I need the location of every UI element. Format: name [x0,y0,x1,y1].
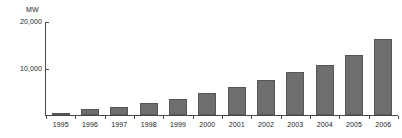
bar-slot [193,22,222,115]
bar[interactable] [169,99,187,115]
x-axis-label: 2003 [281,121,310,128]
bar-slot [281,22,310,115]
bar[interactable] [345,55,363,115]
bar-slot [105,22,134,115]
y-axis-unit-label: MW [26,6,39,13]
x-axis-label: 2002 [251,121,280,128]
y-axis-tick-label: 10,000 [20,65,42,72]
plot-area: 20,00010,000 199519961997199819992000200… [45,22,398,116]
bar[interactable] [198,93,216,115]
x-axis-tick [105,116,106,119]
x-axis-tick [369,116,370,119]
bar[interactable] [110,107,128,115]
y-axis-tick-label-wrap: 20,000 [0,18,42,27]
bar-slot [339,22,368,115]
x-axis-label: 2004 [310,121,339,128]
x-axis-tick [222,116,223,119]
x-axis-tick [339,116,340,119]
x-axis-label: 2001 [222,121,251,128]
x-axis-tick [75,116,76,119]
y-axis-tick-label: 20,000 [20,18,42,25]
x-axis-label: 2005 [339,121,368,128]
x-axis-tick [398,116,399,119]
bar[interactable] [228,87,246,115]
bar[interactable] [316,65,334,115]
bar-slot [222,22,251,115]
x-axis-tick [193,116,194,119]
x-axis-label: 1997 [105,121,134,128]
bar-chart-figure: MW 20,00010,000 199519961997199819992000… [0,0,402,138]
x-axis-label: 1998 [134,121,163,128]
bar[interactable] [374,39,392,115]
bar[interactable] [81,109,99,115]
x-axis-tick [134,116,135,119]
x-axis-label: 1996 [75,121,104,128]
bar-series [46,22,398,115]
x-axis-tick [310,116,311,119]
bar-slot [46,22,75,115]
bar-slot [369,22,398,115]
bar-slot [251,22,280,115]
x-axis-label: 1999 [163,121,192,128]
bar-slot [75,22,104,115]
x-axis-tick [163,116,164,119]
bar[interactable] [286,72,304,115]
bar[interactable] [257,80,275,115]
x-axis-tick [281,116,282,119]
x-axis-label: 2006 [369,121,398,128]
x-axis-label: 1995 [46,121,75,128]
x-axis-tick [251,116,252,119]
bar[interactable] [140,103,158,115]
x-axis-tick [46,116,47,119]
y-axis-tick-label-wrap: 10,000 [0,65,42,74]
bar-slot [310,22,339,115]
x-axis-label: 2000 [193,121,222,128]
bar-slot [163,22,192,115]
bar-slot [134,22,163,115]
bar[interactable] [52,113,70,115]
